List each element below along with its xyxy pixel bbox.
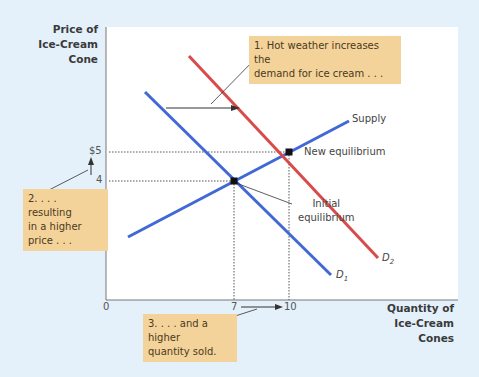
callout-line: price . . .	[28, 234, 103, 248]
d1-label: D1	[336, 269, 348, 283]
new-equilibrium-point	[286, 149, 293, 156]
y-tick-5: $5	[89, 145, 102, 156]
initial-equilibrium-point	[231, 178, 238, 185]
callout-step3: 3. . . . and a higher quantity sold.	[143, 314, 237, 362]
callout-line: demand for ice cream . . .	[254, 67, 396, 81]
callout-line: 1. Hot weather increases the	[254, 39, 396, 67]
x-tick-10: 10	[284, 301, 297, 312]
callout-step1: 1. Hot weather increases the demand for …	[249, 36, 401, 84]
y-axis-title: Price of Ice-Cream Cone	[20, 22, 98, 67]
d1-letter: D	[336, 269, 344, 280]
initial-equilibrium-line: Initial	[298, 197, 355, 211]
supply-label: Supply	[352, 113, 386, 124]
callout-line: 2. . . . resulting	[28, 192, 103, 220]
x-axis-title: Quantity of Ice-Cream Cones	[360, 301, 454, 346]
y-tick-4: 4	[96, 174, 102, 185]
callout-step2: 2. . . . resulting in a higher price . .…	[23, 189, 108, 251]
callout-line: in a higher	[28, 220, 103, 234]
callout2-leader	[49, 170, 88, 190]
initial-eq-leader	[236, 183, 292, 204]
d2-letter: D	[382, 252, 390, 263]
callout-line: quantity sold.	[148, 345, 232, 359]
x-tick-0: 0	[103, 301, 109, 312]
y-axis-title-line: Cone	[20, 52, 98, 67]
new-equilibrium-label: New equilibrium	[304, 146, 385, 157]
x-tick-7: 7	[231, 301, 237, 312]
d1-subscript: 1	[344, 275, 348, 283]
initial-equilibrium-line: equilibrium	[298, 211, 355, 225]
x-axis-title-line: Ice-Cream Cones	[360, 316, 454, 346]
d2-subscript: 2	[390, 258, 394, 266]
price-rise-arrowhead	[88, 157, 94, 165]
y-axis-title-line: Ice-Cream	[20, 37, 98, 52]
initial-equilibrium-label: Initial equilibrium	[298, 197, 355, 225]
x-axis-title-line: Quantity of	[360, 301, 454, 316]
d2-label: D2	[382, 252, 394, 266]
y-axis-title-line: Price of	[20, 22, 98, 37]
qty-rise-arrowhead	[275, 304, 283, 310]
callout-line: 3. . . . and a higher	[148, 317, 232, 345]
